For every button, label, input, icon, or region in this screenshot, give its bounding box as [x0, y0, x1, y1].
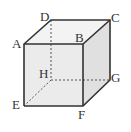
- cube-diagram: D C A B H G E F: [0, 0, 131, 132]
- vertex-label-a: A: [12, 36, 22, 51]
- vertex-label-d: D: [40, 9, 49, 24]
- vertex-label-g: G: [111, 70, 120, 85]
- front-face: [24, 44, 83, 106]
- vertex-label-h: H: [39, 66, 48, 81]
- vertex-label-f: F: [78, 107, 85, 122]
- vertex-label-c: C: [111, 10, 120, 25]
- vertex-label-e: E: [12, 97, 20, 112]
- vertex-label-b: B: [75, 30, 84, 45]
